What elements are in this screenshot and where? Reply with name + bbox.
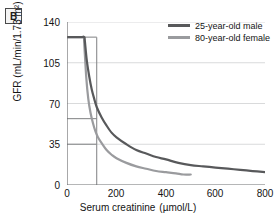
- y-tick-label: 105: [30, 58, 60, 69]
- x-axis-title-text: Serum creatinine: [80, 202, 156, 213]
- plot-svg: [67, 22, 265, 185]
- y-tick-label: 35: [30, 139, 60, 150]
- x-tick-label: 0: [47, 188, 87, 199]
- y-axis-title: GFR (mL/min/1.73 m²): [12, 0, 23, 127]
- x-tick-label: 400: [146, 188, 186, 199]
- y-tick-label: 70: [30, 99, 60, 110]
- x-axis-title: Serum creatinine(µmol/L): [0, 202, 276, 213]
- y-tick-label: 140: [30, 17, 60, 28]
- x-axis-unit: (µmol/L): [159, 202, 196, 213]
- chart-figure: B 140 105 70 35 0 0 200 400 600 800 GFR …: [0, 0, 276, 220]
- x-tick-label: 600: [195, 188, 235, 199]
- x-tick-label: 800: [245, 188, 276, 199]
- plot-area: [67, 22, 265, 185]
- x-tick-label: 200: [96, 188, 136, 199]
- reference-lines: [67, 37, 97, 185]
